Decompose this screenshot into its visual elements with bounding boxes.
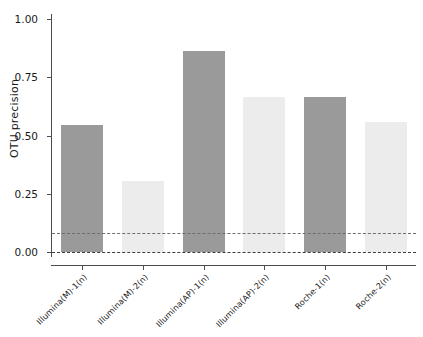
y-axis-tick-mark (47, 136, 51, 137)
x-axis-tick-mark (82, 266, 83, 270)
y-axis-tick-label: 0.50 (15, 130, 38, 142)
y-axis-tick-mark (47, 252, 51, 253)
reference-line-baseline-zero (52, 252, 416, 253)
y-axis-tick-label: 0.00 (15, 246, 38, 258)
x-axis-tick-mark (386, 266, 387, 270)
reference-line-upper-threshold (52, 233, 416, 234)
bar (304, 97, 346, 252)
y-axis-tick-mark (47, 19, 51, 20)
bar-chart: OTU precision 0.000.250.500.751.00 Illum… (0, 0, 423, 337)
bar (243, 97, 285, 252)
y-axis-tick-labels: 0.000.250.500.751.00 (0, 0, 44, 337)
bar (122, 181, 164, 252)
x-axis-tick-mark (204, 266, 205, 270)
y-axis-tick-label: 0.25 (15, 188, 38, 200)
x-axis-tick-mark (143, 266, 144, 270)
y-axis-tick-label: 1.00 (15, 13, 38, 25)
y-axis-tick-mark (47, 77, 51, 78)
x-axis-tick-mark (325, 266, 326, 270)
bar (183, 51, 225, 252)
x-axis-line (51, 265, 416, 266)
y-axis-tick-label: 0.75 (15, 71, 38, 83)
x-axis-tick-mark (264, 266, 265, 270)
y-axis-tick-mark (47, 194, 51, 195)
plot-area (52, 0, 416, 253)
